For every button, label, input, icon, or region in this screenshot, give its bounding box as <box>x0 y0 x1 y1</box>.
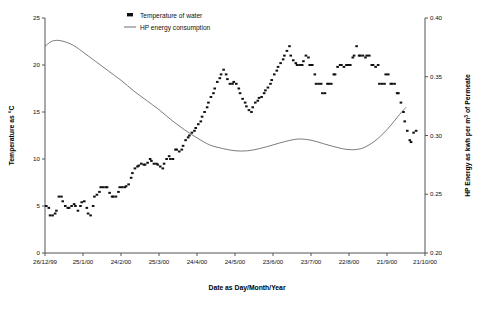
temperature-data-point <box>58 196 61 198</box>
legend-label-temperature: Temperature of water <box>140 12 203 20</box>
right-axis-title: HP Energy as kwh per m3 of Permeate <box>464 74 472 197</box>
temperature-data-point <box>162 167 165 169</box>
left-axis-title: Temperature as °C <box>8 106 16 166</box>
temperature-data-point <box>89 214 92 216</box>
temperature-data-point <box>311 64 314 66</box>
temperature-data-point <box>92 205 95 207</box>
temperature-data-point <box>156 164 159 166</box>
temperature-data-point <box>169 158 172 160</box>
temperature-data-point <box>203 111 206 113</box>
temperature-data-point <box>137 165 140 167</box>
temperature-data-point <box>74 205 77 207</box>
temperature-data-point <box>235 83 238 85</box>
temperature-data-point <box>216 81 219 83</box>
temperature-data-point <box>378 83 381 85</box>
temperature-data-point <box>406 130 409 132</box>
temperature-data-point <box>130 177 133 179</box>
x-tick-label: 24/4/00 <box>187 258 208 265</box>
temperature-data-point <box>201 116 204 118</box>
temperature-data-point <box>365 55 368 57</box>
temperature-data-point <box>115 196 118 198</box>
right-y-tick-label: 0.20 <box>430 249 443 256</box>
temperature-data-point <box>168 155 171 157</box>
temperature-data-point <box>225 73 228 75</box>
temperature-data-point <box>250 111 253 113</box>
temperature-data-point <box>254 102 257 104</box>
x-tick-label: 23/7/00 <box>301 258 322 265</box>
temperature-data-point <box>384 73 387 75</box>
temperature-data-point <box>393 83 396 85</box>
temperature-data-point <box>159 166 162 168</box>
temperature-data-point <box>279 62 282 64</box>
temperature-data-point <box>391 83 394 85</box>
temperature-data-point <box>264 89 267 91</box>
temperature-data-point <box>289 55 292 57</box>
temperature-data-point <box>77 210 80 212</box>
temperature-data-point <box>314 73 317 75</box>
left-y-tick-label: 0 <box>37 249 41 256</box>
temperature-data-point <box>377 64 380 66</box>
right-y-tick-label: 0.30 <box>430 132 443 139</box>
x-axis-title: Date as Day/Month/Year <box>208 284 285 292</box>
left-y-tick-label: 15 <box>33 108 40 115</box>
temperature-data-point <box>79 205 82 207</box>
temperature-data-point <box>277 66 280 68</box>
temperature-data-point <box>415 130 418 132</box>
right-y-tick-label: 0.40 <box>430 14 443 21</box>
temperature-data-point <box>355 45 358 47</box>
temperature-data-point <box>197 123 200 125</box>
temperature-data-point <box>374 66 377 68</box>
temperature-data-point <box>298 64 301 66</box>
temperature-data-point <box>244 102 247 104</box>
temperature-data-point <box>61 200 64 202</box>
temperature-data-point <box>187 136 190 138</box>
left-y-tick-label: 10 <box>33 155 40 162</box>
temperature-data-point <box>412 132 415 134</box>
temperature-data-point <box>117 191 120 193</box>
temperature-data-point <box>400 102 403 104</box>
temperature-data-point <box>308 64 311 66</box>
temperature-data-point <box>241 98 244 100</box>
temperature-data-point <box>387 73 390 75</box>
temperature-data-point <box>200 120 203 122</box>
temperature-data-point <box>153 163 156 165</box>
temperature-data-point <box>352 56 355 58</box>
temperature-data-point <box>54 213 57 215</box>
temperature-data-point <box>45 205 48 207</box>
temperature-data-point <box>295 62 298 64</box>
temperature-data-point <box>49 214 52 216</box>
temperature-data-point <box>194 127 197 129</box>
temperature-data-point <box>229 83 232 85</box>
temperature-data-point <box>232 81 235 83</box>
temperature-data-point <box>172 158 175 160</box>
temperature-data-point <box>349 64 352 66</box>
temperature-data-point <box>213 88 216 90</box>
temperature-data-point <box>346 64 349 66</box>
temperature-data-point <box>226 78 229 80</box>
temperature-data-point <box>191 132 194 134</box>
temperature-data-point <box>330 83 333 85</box>
right-y-tick-label: 0.25 <box>430 190 443 197</box>
left-y-tick-label: 20 <box>33 61 40 68</box>
temperature-data-point <box>238 88 241 90</box>
temperature-data-point <box>87 213 90 215</box>
temperature-data-point <box>86 207 89 209</box>
temperature-data-point <box>181 149 184 151</box>
temperature-data-point <box>182 145 185 147</box>
temperature-data-point <box>359 55 362 57</box>
temperature-data-point <box>175 149 178 151</box>
temperature-data-point <box>340 64 343 66</box>
temperature-data-point <box>184 139 187 141</box>
temperature-data-point <box>282 58 285 60</box>
temperature-data-point <box>206 106 209 108</box>
temperature-data-point <box>276 70 279 72</box>
temperature-data-point <box>51 214 54 216</box>
temperature-data-point <box>307 56 310 58</box>
temperature-data-point <box>219 77 222 79</box>
temperature-data-point <box>317 83 320 85</box>
temperature-data-point <box>286 50 289 52</box>
temperature-data-point <box>222 69 225 71</box>
temperature-data-point <box>140 163 143 165</box>
temperature-data-point <box>150 160 153 162</box>
temperature-data-point <box>368 55 371 57</box>
